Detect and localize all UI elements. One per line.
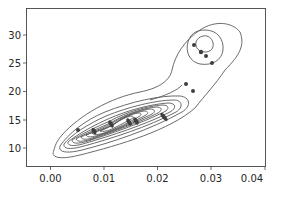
x-tick-label: 0.01 <box>93 173 115 184</box>
y-tick-label: 25 <box>8 58 21 69</box>
y-axis: 30 25 20 15 10 <box>8 30 26 154</box>
y-tick-label: 30 <box>8 30 21 41</box>
y-tick-label: 10 <box>8 143 21 154</box>
data-points <box>76 43 214 135</box>
x-tick-label: 0.00 <box>39 173 61 184</box>
density-contours <box>53 23 242 157</box>
y-tick-label: 20 <box>8 86 21 97</box>
x-axis: 0.00 0.01 0.02 0.03 0.04 <box>39 167 265 185</box>
y-tick-label: 15 <box>8 115 21 126</box>
x-tick-label: 0.04 <box>241 173 263 184</box>
contour-chart: 30 25 20 15 10 0.00 0.01 0.02 0.03 0.04 <box>0 0 283 206</box>
x-tick-label: 0.02 <box>146 173 168 184</box>
x-tick-label: 0.03 <box>200 173 222 184</box>
